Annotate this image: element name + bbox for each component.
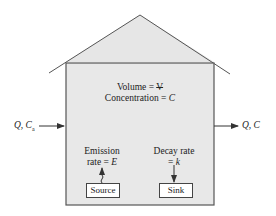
inflow-label: Q, Ca: [14, 120, 35, 135]
house-diagram: [0, 0, 276, 216]
concentration-label: Concentration = C: [92, 93, 188, 104]
sink-box: Sink: [159, 183, 193, 198]
outflow-label: Q, C: [242, 120, 260, 131]
emission-label: Emission rate = E: [80, 146, 124, 168]
decay-label: Decay rate = k: [150, 146, 198, 168]
volume-label: Volume = V: [100, 82, 180, 93]
source-box: Source: [86, 183, 120, 198]
